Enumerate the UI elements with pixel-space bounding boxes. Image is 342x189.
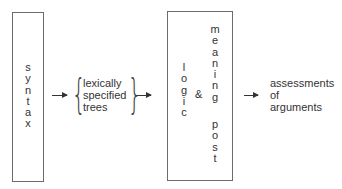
lexically-specified-trees-label: lexically specified trees: [83, 77, 126, 113]
right-brace-icon: }: [128, 74, 142, 114]
arrow-right-icon: [137, 95, 151, 96]
meaning-post-label: m e a n i n g p o s t: [209, 24, 221, 164]
arrow-right-icon: [52, 95, 67, 96]
ampersand-label: &: [195, 88, 202, 100]
syntax-label: s y n t a x: [22, 62, 34, 130]
logic-label: l o g i c: [178, 62, 190, 118]
assessments-of-arguments-label: assessments of arguments: [270, 77, 334, 113]
arrow-right-icon: [244, 95, 258, 96]
